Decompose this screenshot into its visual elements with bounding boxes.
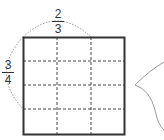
top-denominator: 3 [55, 22, 62, 36]
square-outline [24, 38, 125, 135]
speech-bubble-edge [135, 62, 164, 130]
left-denominator: 4 [5, 73, 12, 87]
left-numerator: 3 [5, 58, 12, 72]
left-fraction-label: 3 4 [2, 59, 14, 86]
dashed-grid-lines [23, 37, 124, 134]
fraction-diagram [0, 0, 164, 140]
top-numerator: 2 [55, 7, 62, 21]
top-fraction-label: 2 3 [52, 8, 64, 35]
